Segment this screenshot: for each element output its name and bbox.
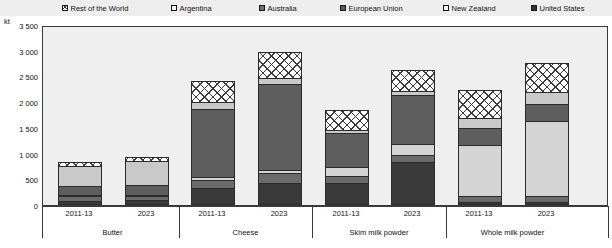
bar-segment-row (526, 64, 568, 94)
y-tick-label-3000: 3 000 (0, 47, 38, 56)
legend-item-aus[interactable]: Australia (259, 4, 297, 13)
plot-area (42, 26, 608, 206)
bar-segment-arg (326, 168, 368, 177)
bar-segment-nz (192, 103, 234, 111)
chart-root: Rest of the WorldArgentinaAustraliaEurop… (0, 0, 612, 248)
bar-segment-aus (392, 156, 434, 163)
near-black-swatch (531, 5, 537, 11)
x-axis-line (42, 206, 608, 207)
bar-segment-eu (392, 96, 434, 145)
bar-segment-row (392, 71, 434, 92)
bar-segment-eu (459, 129, 501, 146)
bar-segment-row (192, 82, 234, 103)
x-tick-label-4: 2011-13 (333, 209, 360, 218)
bar-segment-row (326, 111, 368, 130)
group-label-whole-milk-powder: Whole milk powder (481, 228, 544, 237)
x-tick-label-0: 2011-13 (66, 209, 93, 218)
bar-segment-us (326, 184, 368, 204)
legend-item-nz[interactable]: New Zealand (443, 4, 496, 13)
x-tick-label-3: 2023 (271, 209, 288, 218)
x-tick-label-2: 2011-13 (199, 209, 226, 218)
legend-item-us[interactable]: United States (531, 4, 585, 13)
bar-segment-nz (459, 119, 501, 130)
y-tick-label-1000: 1 000 (0, 150, 38, 159)
bar-segment-us (392, 163, 434, 204)
bar-whole-milk-powder-2023[interactable] (525, 63, 569, 205)
legend-label-row: Rest of the World (71, 4, 129, 13)
bar-segment-arg (392, 145, 434, 156)
legend-item-eu[interactable]: European Union (340, 4, 403, 13)
x-tick-label-5: 2023 (404, 209, 421, 218)
bar-whole-milk-powder-2011-13[interactable] (458, 90, 502, 205)
group-separator-3 (446, 206, 447, 238)
bar-segment-us (259, 184, 301, 204)
bar-segment-us (192, 189, 234, 204)
chart-legend: Rest of the WorldArgentinaAustraliaEurop… (0, 0, 612, 16)
bar-segment-row (259, 53, 301, 79)
legend-label-aus: Australia (268, 4, 297, 13)
x-tick-label-1: 2023 (138, 209, 155, 218)
bar-segment-arg (526, 122, 568, 198)
group-separator-4 (608, 206, 609, 238)
legend-label-nz: New Zealand (452, 4, 496, 13)
bar-segment-aus (326, 177, 368, 184)
group-separator-0 (42, 206, 43, 238)
y-tick-label-1500: 1 500 (0, 124, 38, 133)
group-separator-2 (312, 206, 313, 238)
y-tick-label-500: 500 (0, 176, 38, 185)
bar-skim-milk-powder-2011-13[interactable] (325, 110, 369, 205)
bar-cheese-2011-13[interactable] (191, 81, 235, 205)
y-tick-label-2000: 2 000 (0, 99, 38, 108)
group-label-butter: Butter (102, 228, 122, 237)
group-label-cheese: Cheese (233, 228, 259, 237)
y-tick-label-0: 0 (0, 202, 38, 211)
bar-segment-row (459, 91, 501, 118)
bar-butter-2023[interactable] (125, 157, 169, 205)
legend-item-arg[interactable]: Argentina (171, 4, 212, 13)
legend-label-arg: Argentina (180, 4, 212, 13)
light-gray-swatch (171, 5, 177, 11)
bar-segment-eu (259, 85, 301, 171)
bar-segment-eu (59, 187, 101, 196)
bar-segment-nz (526, 93, 568, 105)
bar-segment-eu (526, 105, 568, 121)
bar-segment-eu (192, 110, 234, 178)
group-label-skim-milk-powder: Skim milk powder (350, 228, 409, 237)
bar-segment-us (459, 203, 501, 204)
bar-segment-nz (126, 162, 168, 186)
bar-segment-arg (459, 146, 501, 197)
bar-segment-us (126, 201, 168, 204)
legend-label-eu: European Union (349, 4, 403, 13)
group-separator-1 (179, 206, 180, 238)
legend-label-us: United States (540, 4, 585, 13)
bar-segment-us (59, 202, 101, 204)
dark-gray-swatch (340, 5, 346, 11)
medium-gray-swatch (259, 5, 265, 11)
bar-segment-aus (259, 174, 301, 184)
bar-skim-milk-powder-2023[interactable] (391, 70, 435, 205)
legend-item-row[interactable]: Rest of the World (62, 4, 128, 13)
y-tick-label-3500: 3 500 (0, 22, 38, 31)
bar-segment-nz (59, 167, 101, 188)
bar-butter-2011-13[interactable] (58, 162, 102, 205)
bar-segment-us (526, 203, 568, 204)
x-tick-label-6: 2011-13 (466, 209, 493, 218)
x-tick-label-7: 2023 (538, 209, 555, 218)
bar-segment-eu (326, 134, 368, 168)
y-tick-label-2500: 2 500 (0, 73, 38, 82)
bar-cheese-2023[interactable] (258, 52, 302, 205)
pale-gray-swatch (443, 5, 449, 11)
bar-segment-eu (126, 186, 168, 196)
cross-hatch-swatch (62, 5, 68, 11)
bar-segment-aus (192, 181, 234, 189)
